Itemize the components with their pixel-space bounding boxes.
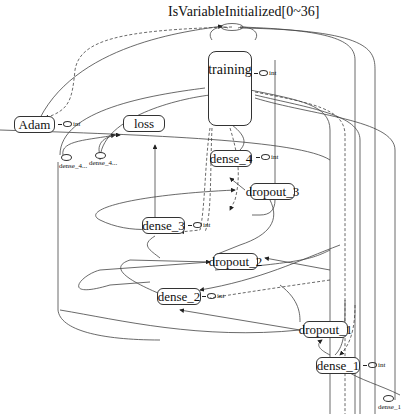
arrow-icon [202, 296, 206, 297]
arrow-icon [363, 365, 367, 366]
badge-dense4-int: int [256, 153, 278, 161]
arrow-icon [254, 73, 258, 74]
aux-label-dense4b: dense_4... [89, 159, 117, 167]
oval-icon [193, 222, 202, 228]
oval-icon [259, 70, 268, 76]
badge-dense2-int: int [202, 292, 224, 300]
node-dense-4-label: dense_4 [210, 151, 253, 167]
node-dense-1-label: dense_1 [317, 358, 360, 374]
oval-icon [63, 121, 72, 127]
node-dense-3[interactable]: dense_3 [142, 217, 185, 234]
oval-icon [261, 154, 270, 160]
badge-adam-int: int [58, 120, 80, 128]
node-dropout-3[interactable]: dropout_3 [250, 183, 295, 200]
node-loss-label: loss [134, 116, 154, 132]
edge-layer [0, 0, 410, 414]
oval-icon [207, 293, 216, 299]
arrow-icon [256, 157, 260, 158]
aux-node-dense4a[interactable] [61, 154, 72, 161]
badge-dense3-int: int [188, 221, 210, 229]
arrow-icon [188, 225, 192, 226]
aux-node-dense4b[interactable] [95, 152, 106, 159]
node-dropout-3-label: dropout_3 [246, 184, 299, 200]
node-dense-3-label: dense_3 [142, 218, 185, 234]
node-dropout-1[interactable]: dropout_1 [303, 321, 348, 338]
node-dense-2[interactable]: dense_2 [157, 288, 201, 305]
aux-node-dense1[interactable] [383, 395, 394, 402]
node-dense-4[interactable]: dense_4 [210, 150, 252, 167]
aux-label-dense1: dense_1 [378, 403, 401, 411]
node-adam-label: Adam [19, 117, 51, 133]
node-dropout-2-label: dropout_2 [209, 254, 262, 270]
node-dense-1[interactable]: dense_1 [316, 357, 360, 374]
aux-label-dense4a: dense_4... [59, 162, 87, 170]
graph-title: IsVariableInitialized[0~36] [168, 4, 319, 20]
node-dense-2-label: dense_2 [158, 289, 201, 305]
badge-training-int: int [254, 69, 276, 77]
node-dropout-1-label: dropout_1 [299, 322, 352, 338]
graph-canvas: IsVariableInitialized[0~36] training int… [0, 0, 410, 414]
node-training[interactable]: training [208, 51, 252, 126]
node-loss[interactable]: loss [123, 115, 165, 132]
node-training-label: training [208, 62, 252, 78]
arrow-icon [58, 124, 62, 125]
node-dropout-2[interactable]: dropout_2 [213, 253, 258, 270]
badge-dense1-int: int [363, 361, 385, 369]
oval-icon [368, 362, 377, 368]
node-adam[interactable]: Adam [14, 116, 55, 133]
